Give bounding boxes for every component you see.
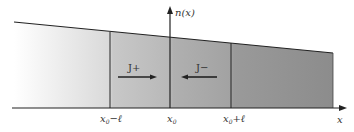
concentration-region xyxy=(14,22,333,108)
flux-plus-label: J+ xyxy=(127,62,140,73)
tick-label-left: x0−ℓ xyxy=(100,113,122,125)
tick-label-center: x0 xyxy=(167,113,177,125)
tick-label-right: x0+ℓ xyxy=(223,113,245,125)
y-axis-arrow-icon xyxy=(167,6,173,14)
x-axis-label: x xyxy=(337,114,343,125)
diffusion-diagram: J+ J− n(x) x x0−ℓ x0 x0+ℓ xyxy=(0,0,354,132)
flux-minus-label: J− xyxy=(195,62,208,73)
y-axis-label: n(x) xyxy=(175,7,195,18)
x-axis-arrow-icon xyxy=(339,105,347,111)
